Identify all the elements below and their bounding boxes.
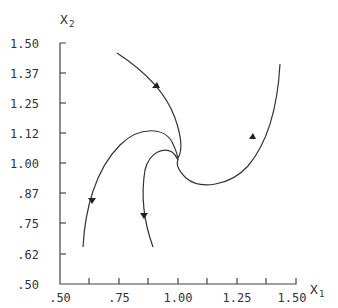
y-tick-label: 1.25 <box>10 97 39 111</box>
y-tick-label: .62 <box>17 248 39 262</box>
x-ticks <box>89 278 266 284</box>
svg-text:2: 2 <box>69 19 74 29</box>
x-tick-label: .50 <box>49 291 71 305</box>
svg-text:1: 1 <box>319 289 324 299</box>
x-tick-label: 1.00 <box>164 291 193 305</box>
y-tick-label: .50 <box>17 278 39 292</box>
trajectories <box>83 53 280 247</box>
direction-arrows <box>88 82 256 219</box>
y-ticks <box>60 73 66 254</box>
y-tick-label: 1.00 <box>10 157 39 171</box>
y-tick-label: 1.50 <box>10 37 39 51</box>
trajectory-2 <box>177 64 280 185</box>
y-tick-label: 1.37 <box>10 67 39 81</box>
svg-text:X: X <box>310 282 318 297</box>
x-tick-labels: .50 .75 1.00 1.25 1.50 <box>49 291 306 305</box>
phase-portrait-chart: 1.50 1.37 1.25 1.12 1.00 .87 .75 .62 .50… <box>0 0 338 308</box>
svg-text:X: X <box>60 12 68 27</box>
x-tick-label: 1.50 <box>278 291 307 305</box>
y-tick-label: .87 <box>17 187 39 201</box>
x-tick-label: 1.25 <box>223 291 252 305</box>
arrow-icon <box>140 213 148 219</box>
y-tick-label: 1.12 <box>10 127 39 141</box>
x-tick-label: .75 <box>108 291 130 305</box>
trajectory-4 <box>143 150 178 247</box>
y-axis <box>60 43 296 284</box>
y-tick-labels: 1.50 1.37 1.25 1.12 1.00 .87 .75 .62 .50 <box>10 37 39 292</box>
trajectory-3 <box>83 131 178 247</box>
y-tick-label: .75 <box>17 217 39 231</box>
y-axis-title: X 2 <box>60 12 74 29</box>
x-axis-title: X 1 <box>310 282 324 299</box>
arrow-icon <box>249 133 256 139</box>
